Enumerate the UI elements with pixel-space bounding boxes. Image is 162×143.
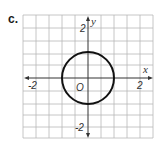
y-axis-top-arrow-icon <box>86 16 90 21</box>
x-tick-label-2: 2 <box>136 80 143 91</box>
y-tick-label-neg2: -2 <box>75 122 84 133</box>
coordinate-plane: -2 2 2 -2 O x y <box>0 0 162 143</box>
x-axis-right-arrow-icon <box>148 76 153 80</box>
origin-label: O <box>76 82 84 93</box>
y-axis-label: y <box>90 15 96 27</box>
x-axis-label: x <box>142 63 148 75</box>
x-tick-label-neg2: -2 <box>28 80 37 91</box>
y-axis-bottom-arrow-icon <box>86 133 90 138</box>
y-axis <box>86 16 90 138</box>
y-tick-label-2: 2 <box>79 23 86 34</box>
